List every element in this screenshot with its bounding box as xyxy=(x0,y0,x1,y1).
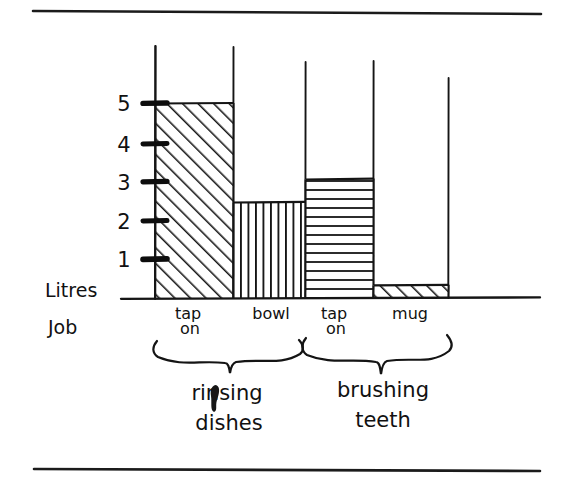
x-axis-line xyxy=(121,297,540,298)
group-captions: rinsing dishes brushing teeth xyxy=(191,378,429,435)
brace-rinsing-dishes xyxy=(153,340,303,373)
bar-mug-brushing xyxy=(373,285,448,298)
brace-brushing-teeth xyxy=(302,335,451,374)
group-caption-2-line1: brushing xyxy=(337,378,429,402)
y-axis-title: Litres xyxy=(45,279,97,301)
group-caption-2-line2: teeth xyxy=(355,408,411,432)
category-label-bar2-line1: bowl xyxy=(252,304,289,323)
bars-group xyxy=(155,103,448,298)
category-label-bar4-line1: mug xyxy=(392,304,428,323)
category-labels: tap on bowl tap on mug xyxy=(175,304,428,338)
group-braces xyxy=(153,335,451,374)
bar-bowl-rinsing xyxy=(233,202,305,298)
y-tick-label-3: 3 xyxy=(117,171,130,195)
category-label-bar1-line2: on xyxy=(180,319,200,338)
y-tick-labels: 5 4 3 2 1 xyxy=(117,92,130,272)
y-tick-label-5: 5 xyxy=(117,92,130,116)
bar-chart-figure: 5 4 3 2 1 Litres Job tap on bowl tap on … xyxy=(0,0,562,489)
category-label-bar3-line2: on xyxy=(326,319,346,338)
bar-tap-on-brushing xyxy=(305,179,373,298)
worksheet-page: 5 4 3 2 1 Litres Job tap on bowl tap on … xyxy=(0,0,562,489)
y-tick-label-2: 2 xyxy=(117,210,130,234)
group-caption-1-line2: dishes xyxy=(195,411,262,435)
y-tick-label-4: 4 xyxy=(117,133,130,157)
bar-tap-on-rinsing xyxy=(155,103,233,298)
y-tick-label-1: 1 xyxy=(117,248,130,272)
group-caption-1-line1: rinsing xyxy=(191,381,262,405)
x-axis-title: Job xyxy=(47,316,77,338)
